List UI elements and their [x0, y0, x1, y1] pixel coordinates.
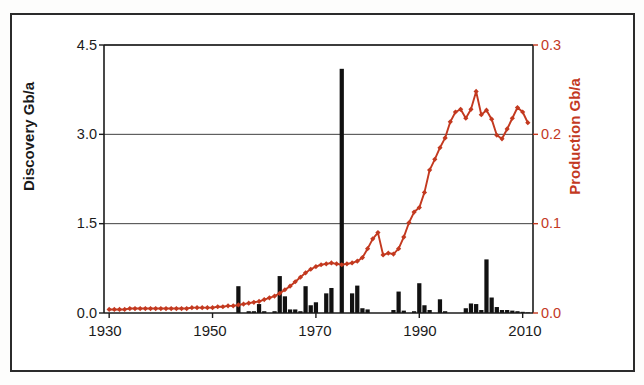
axis-lines: [104, 45, 533, 313]
production-line: [109, 91, 528, 309]
chart-figure: Discovery Gb/a Production Gb/a 0.0 1.5 3…: [0, 0, 644, 385]
production-markers: [107, 89, 531, 312]
discovery-bars: [236, 69, 530, 313]
plot-canvas: [0, 0, 644, 385]
axis-ticks: [99, 45, 538, 318]
gridlines: [104, 45, 533, 224]
plot-container: Discovery Gb/a Production Gb/a 0.0 1.5 3…: [0, 0, 644, 385]
